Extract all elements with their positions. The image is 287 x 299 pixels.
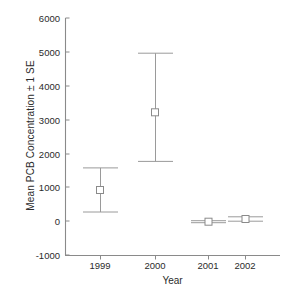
x-tick-label: 1999 <box>77 260 123 271</box>
data-point-2000 <box>138 53 173 161</box>
plot-area <box>0 0 287 299</box>
marker-square-1999 <box>97 187 104 194</box>
x-axis-tick-labels: 1999 2000 2001 2002 <box>0 260 287 276</box>
marker-square-2002 <box>242 216 249 223</box>
x-tick-label: 2002 <box>222 260 268 271</box>
data-point-2001 <box>191 218 226 225</box>
data-point-2002 <box>228 216 263 223</box>
chart-figure: Mean PCB Concentration ± 1 SE 6000 5000 … <box>0 0 287 299</box>
x-axis-ticks <box>101 256 246 260</box>
x-axis-title: Year <box>65 275 280 286</box>
y-axis-ticks <box>66 18 70 255</box>
x-tick-label: 2000 <box>132 260 178 271</box>
data-point-1999 <box>83 168 118 212</box>
marker-square-2001 <box>205 218 212 225</box>
marker-square-2000 <box>152 109 159 116</box>
